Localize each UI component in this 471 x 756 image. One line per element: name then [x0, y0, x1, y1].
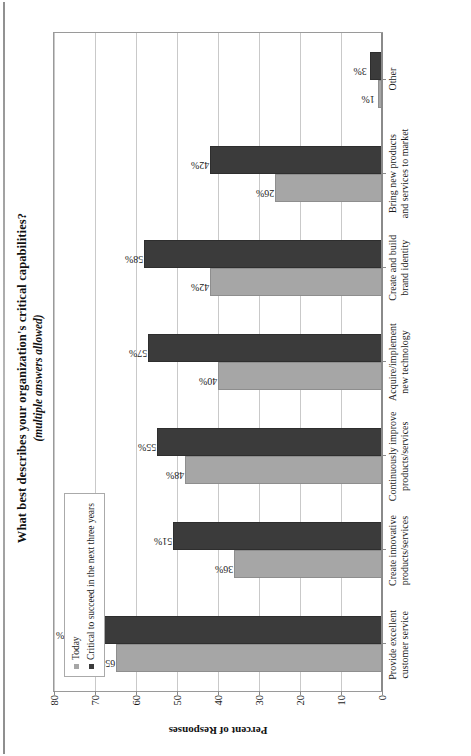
plot-area: 80706050403020100 65%75%36%51%48%55%40%5…	[53, 32, 383, 692]
bar-today[interactable]: 36%	[234, 550, 382, 578]
category-label: Other	[387, 32, 411, 126]
category-label: Provide excellent customer service	[387, 598, 411, 692]
bar-critical[interactable]: 58%	[144, 240, 382, 268]
category-tick-mark	[382, 549, 386, 550]
bar-today[interactable]: 40%	[218, 362, 382, 390]
bar-group: 42%58%	[54, 221, 382, 315]
bar-chart-figure: What best describes your organization's …	[11, 8, 461, 748]
y-tick-label: 70	[89, 695, 100, 706]
category-tick-mark	[382, 79, 386, 80]
legend: Today Critical to succeed in the next th…	[64, 493, 105, 677]
y-tick-label: 10	[335, 695, 346, 706]
bar-group: 26%42%	[54, 127, 382, 221]
bar-value-label: 36%	[215, 564, 233, 575]
bar-critical[interactable]: 51%	[172, 522, 381, 550]
y-tick-label: 50	[171, 695, 182, 706]
category-tick-mark	[382, 267, 386, 268]
bar-value-label: 55%	[137, 442, 155, 453]
scan-edge-artifact	[3, 2, 5, 754]
bar-critical[interactable]: 42%	[209, 146, 381, 174]
category-label: Create innovative products/services	[387, 503, 411, 597]
bar-pair: 40%57%	[54, 315, 382, 409]
bar-value-label: 40%	[198, 376, 216, 387]
bar-value-label: 48%	[166, 470, 184, 481]
category-label: Create and build brand identity	[387, 221, 411, 315]
y-tick-label: 80	[48, 695, 59, 706]
bar-today[interactable]: 42%	[209, 268, 381, 296]
legend-item-critical: Critical to succeed in the next three ye…	[85, 503, 98, 669]
y-axis-title-text: Percent of Responses	[168, 725, 267, 737]
bar-group: 1%3%	[54, 33, 382, 127]
legend-item-today: Today	[70, 503, 83, 669]
category-label: Acquire/implement new technology	[387, 315, 411, 409]
y-tick-label: 30	[253, 695, 264, 706]
y-tick-label: 0	[376, 695, 387, 700]
rotated-figure-container: What best describes your organization's …	[11, 8, 461, 748]
bar-value-label: 42%	[190, 282, 208, 293]
scanned-chart-page: What best describes your organization's …	[0, 0, 471, 756]
y-tick-label: 40	[212, 695, 223, 706]
y-axis-title: Percent of Responses	[53, 722, 383, 740]
category-tick-mark	[382, 173, 386, 174]
bar-value-label: 57%	[129, 348, 147, 359]
legend-label-today: Today	[70, 636, 83, 660]
bar-today[interactable]: 65%	[115, 644, 382, 672]
category-label: Bring new products and services to marke…	[387, 126, 411, 220]
category-tick-mark	[382, 643, 386, 644]
bar-group: 48%55%	[54, 409, 382, 503]
chart-title: What best describes your organization's …	[15, 8, 30, 748]
bar-today[interactable]: 26%	[275, 174, 382, 202]
bar-value-label: 26%	[256, 188, 274, 199]
bar-value-label: 3%	[353, 66, 366, 77]
bar-value-label: 42%	[190, 160, 208, 171]
y-tick-label: 20	[294, 695, 305, 706]
bar-group: 40%57%	[54, 315, 382, 409]
y-tick-label: 60	[130, 695, 141, 706]
legend-swatch-critical	[89, 664, 94, 669]
bar-value-label: 58%	[125, 254, 143, 265]
legend-label-critical: Critical to succeed in the next three ye…	[85, 503, 98, 660]
category-tick-mark	[382, 455, 386, 456]
bar-pair: 48%55%	[54, 409, 382, 503]
category-axis-labels: Provide excellent customer serviceCreate…	[387, 32, 411, 692]
chart-title-block: What best describes your organization's …	[15, 8, 44, 748]
chart-subtitle: (multiple answers allowed)	[32, 8, 44, 748]
category-label: Continuously improve products/services	[387, 409, 411, 503]
category-tick-mark	[382, 361, 386, 362]
axis-baseline	[381, 33, 382, 691]
bar-critical[interactable]: 3%	[369, 52, 381, 80]
bar-critical[interactable]: 75%	[74, 616, 382, 644]
bar-value-label: 1%	[361, 94, 374, 105]
bar-critical[interactable]: 57%	[148, 334, 382, 362]
legend-swatch-today	[74, 664, 79, 669]
bar-pair: 42%58%	[54, 221, 382, 315]
bar-pair: 26%42%	[54, 127, 382, 221]
bar-pair: 1%3%	[54, 33, 382, 127]
bar-today[interactable]: 48%	[185, 456, 382, 484]
bar-value-label: 51%	[153, 536, 171, 547]
bar-critical[interactable]: 55%	[156, 428, 382, 456]
